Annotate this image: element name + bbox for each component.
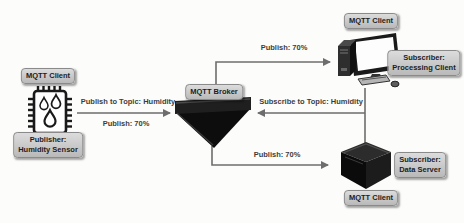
publish-value-label-bottom: Publish: 70% (254, 150, 301, 159)
processing-client-mqtt-badge: MQTT Client (344, 13, 398, 29)
broker-hopper-icon (174, 92, 252, 150)
broker-label-badge: MQTT Broker (185, 84, 243, 100)
data-server-role-badge: Subscriber: Data Server (394, 152, 446, 178)
processing-client-role-line2: Processing Client (392, 63, 455, 73)
data-server-mqtt-badge: MQTT Client (344, 190, 398, 206)
server-box-icon (333, 139, 397, 191)
processing-client-role-line1: Subscriber: (392, 53, 455, 63)
data-server-role-line2: Data Server (399, 165, 441, 175)
publish-topic-label: Publish to Topic: Humidity (81, 97, 175, 106)
processing-client-role-badge: Subscriber: Processing Client (387, 50, 460, 76)
mqtt-architecture-diagram: MQTT Client Publisher: Humidity Sensor P… (0, 0, 464, 223)
publish-value-label-left: Publish: 70% (103, 119, 150, 128)
publisher-role-badge: Publisher: Humidity Sensor (13, 132, 83, 158)
publisher-role-line1: Publisher: (18, 135, 78, 145)
publisher-role-line2: Humidity Sensor (18, 145, 78, 155)
subscribe-topic-label: Subscribe to Topic: Humidity (259, 97, 363, 106)
data-server-role-line1: Subscriber: (399, 155, 441, 165)
publisher-mqtt-client-badge: MQTT Client (21, 68, 75, 84)
publish-value-label-top: Publish: 70% (261, 43, 308, 52)
humidity-sensor-chip-icon (26, 85, 74, 137)
